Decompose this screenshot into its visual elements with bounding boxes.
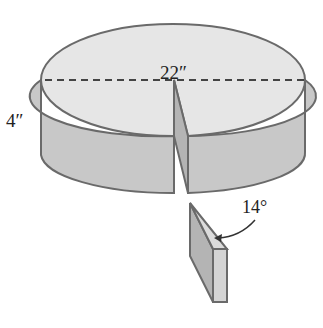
diameter-label: 22″ (160, 62, 187, 84)
height-label: 4″ (6, 110, 23, 132)
angle-arrow (214, 220, 255, 242)
removed-wedge-piece (190, 203, 227, 302)
angle-label: 14° (242, 197, 267, 218)
cake-diagram (0, 0, 323, 328)
